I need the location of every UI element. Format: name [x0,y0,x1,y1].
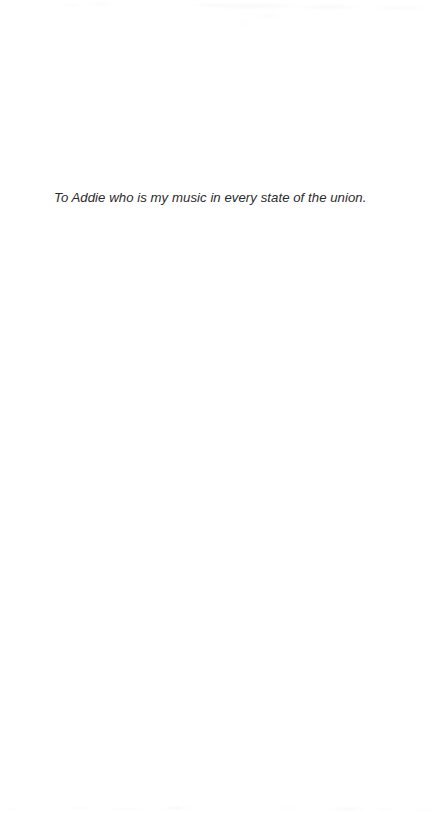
dedication-page: To Addie who is my music in every state … [0,0,440,813]
dedication-text: To Addie who is my music in every state … [54,189,384,206]
scan-ghost-top-edge [0,0,440,26]
scan-ghost-bottom-edge [0,789,440,813]
